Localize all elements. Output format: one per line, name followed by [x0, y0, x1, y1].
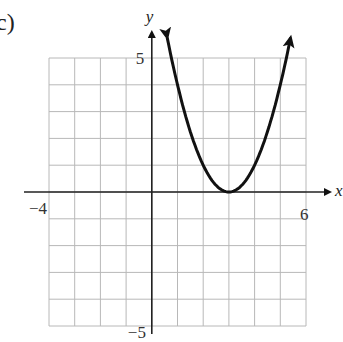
x-axis-label: x	[335, 182, 343, 199]
y-axis-label: y	[146, 8, 154, 25]
x-min-tick-label: −4	[29, 200, 47, 217]
part-label: c)	[0, 10, 15, 34]
y-min-tick-label: −5	[128, 324, 146, 341]
x-max-tick-label: 6	[300, 206, 309, 223]
y-max-tick-label: 5	[136, 50, 145, 67]
